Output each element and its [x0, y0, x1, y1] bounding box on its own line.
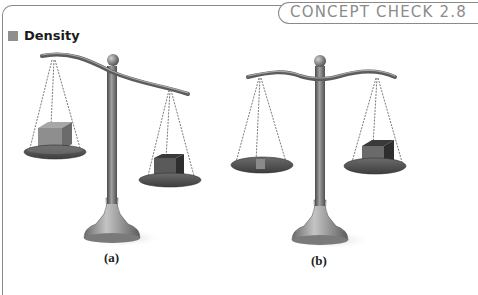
figure-caption-b: (b) [311, 253, 327, 269]
balance-a [24, 53, 201, 247]
balance-b [231, 55, 406, 249]
small-light-block [256, 159, 265, 169]
figure-caption-a: (a) [104, 250, 119, 266]
